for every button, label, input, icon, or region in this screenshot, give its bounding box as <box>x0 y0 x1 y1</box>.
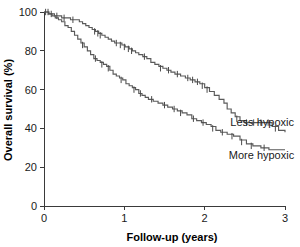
survival-curve-2 <box>44 12 285 150</box>
x-tick-label: 1 <box>121 212 127 224</box>
chart-canvas: 020406080100 0123 Less hypoxicMore hypox… <box>0 0 300 247</box>
x-tick-label: 0 <box>41 212 47 224</box>
y-tick-label: 40 <box>25 122 37 134</box>
y-tick-label: 60 <box>25 84 37 96</box>
y-axis-title: Overall survival (%) <box>2 59 14 161</box>
survival-curves <box>44 12 285 150</box>
x-tick-label: 3 <box>282 212 288 224</box>
series-label-2: More hypoxic <box>229 149 295 161</box>
chart-axes <box>44 12 285 206</box>
x-axis-title: Follow-up (years) <box>126 231 217 243</box>
series-label-1: Less hypoxic <box>230 116 294 128</box>
y-tick-label: 0 <box>31 200 37 212</box>
y-tick-label: 100 <box>19 6 37 18</box>
censor-marks <box>46 9 276 151</box>
survival-curve-1 <box>44 12 285 132</box>
y-axis-ticks: 020406080100 <box>19 6 44 212</box>
series-labels: Less hypoxicMore hypoxic <box>229 116 295 161</box>
y-tick-label: 80 <box>25 45 37 57</box>
x-axis-ticks: 0123 <box>41 206 288 224</box>
x-tick-label: 2 <box>202 212 208 224</box>
survival-chart: 020406080100 0123 Less hypoxicMore hypox… <box>0 0 300 247</box>
y-tick-label: 20 <box>25 161 37 173</box>
